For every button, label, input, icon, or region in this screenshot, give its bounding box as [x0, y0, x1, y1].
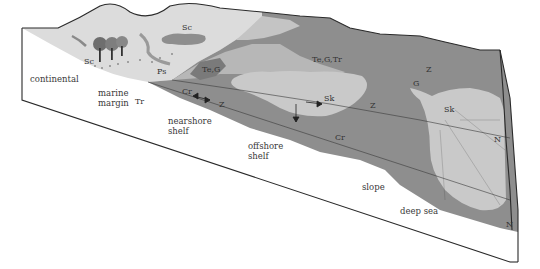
label-z-mid: Z [370, 101, 376, 110]
label-cr-mid: Cr [335, 133, 345, 142]
label-z-right: Z [426, 65, 432, 74]
label-cr-near: Cr [182, 87, 192, 96]
label-shelf-off: shelf [248, 151, 270, 161]
label-shelf-near: shelf [168, 126, 190, 136]
label-nearshore: nearshore [168, 116, 212, 126]
label-deep-sea: deep sea [400, 206, 438, 216]
label-g-right: G [413, 79, 419, 88]
label-offshore: offshore [248, 141, 283, 151]
label-n-lower: N [506, 220, 513, 229]
lake [162, 34, 206, 46]
label-slope: slope [362, 182, 385, 192]
label-te-g-tr: Te,G,Tr [312, 55, 342, 64]
block-diagram: continental marine margin nearshore shel… [0, 0, 540, 269]
label-continental: continental [30, 74, 79, 84]
label-marine: marine [98, 88, 128, 98]
label-ps: Ps [157, 67, 166, 76]
label-sk-mid: Sk [324, 94, 334, 103]
label-tr: Tr [135, 97, 144, 106]
label-sk-fan: Sk [444, 105, 454, 114]
label-margin: margin [98, 98, 129, 108]
label-n-upper: N [494, 135, 501, 144]
label-sc-lake: Sc [182, 23, 192, 32]
label-te-g: Te,G [202, 65, 220, 74]
label-sc-land: Sc [84, 57, 94, 66]
label-z-near: Z [219, 100, 225, 109]
